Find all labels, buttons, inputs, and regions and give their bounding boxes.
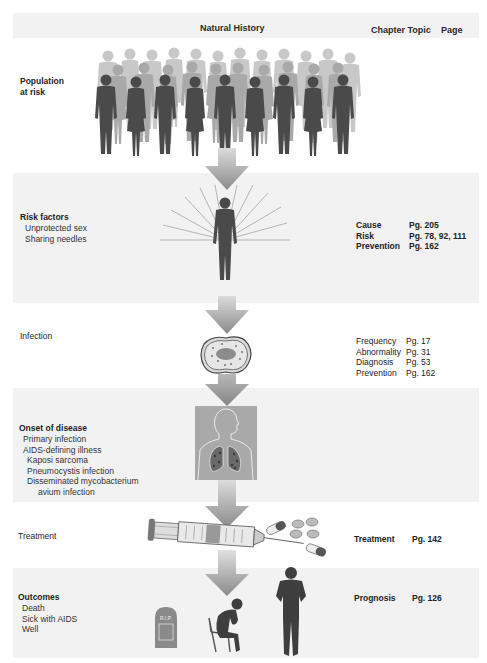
ref-topic: Prevention xyxy=(356,368,406,379)
ref-topic: Cause xyxy=(356,220,409,231)
stage-title-outcomes: Outcomes xyxy=(18,592,77,603)
risk-detail: Unprotected sex xyxy=(20,223,87,234)
person-radiating-illustration xyxy=(155,185,295,290)
ref-row: Abnormality Pg. 31 xyxy=(356,347,435,358)
risk-detail: Sharing needles xyxy=(20,234,87,245)
ref-page-link[interactable]: Pg. 162 xyxy=(406,368,435,379)
infection-refs: Frequency Pg. 17 Abnormality Pg. 31 Diag… xyxy=(356,336,435,378)
flow-arrow-down xyxy=(205,148,249,190)
treatment-refs: Treatment Pg. 142 xyxy=(354,534,442,545)
outcome-detail: Sick with AIDS xyxy=(18,614,77,625)
ref-topic: Frequency xyxy=(356,336,406,347)
ref-row: Prognosis Pg. 126 xyxy=(354,593,442,604)
ref-topic: Prevention xyxy=(356,241,409,252)
onset-detail: AIDS-defining illness xyxy=(19,445,138,456)
onset-detail: Kaposi sarcoma xyxy=(19,455,138,466)
onset-detail: Primary infection xyxy=(19,434,138,445)
stage-outcomes-text: Outcomes Death Sick with AIDS Well xyxy=(18,592,77,635)
onset-detail: Pneumocystis infection xyxy=(19,466,138,477)
ref-row: Risk Pg. 78, 92, 111 xyxy=(356,231,466,242)
stage-title-treatment: Treatment xyxy=(18,531,56,542)
ref-topic: Risk xyxy=(356,231,409,242)
ref-row: Diagnosis Pg. 53 xyxy=(356,357,435,368)
stage-onset-text: Onset of disease Primary infection AIDS-… xyxy=(19,423,138,498)
svg-text:R.I.P.: R.I.P. xyxy=(160,615,172,621)
ref-page-link[interactable]: Pg. 78, 92, 111 xyxy=(409,231,466,242)
ref-page-link[interactable]: Pg. 53 xyxy=(406,357,431,368)
ref-topic: Treatment xyxy=(354,534,412,545)
flow-arrow-down xyxy=(205,374,249,406)
outcomes-refs: Prognosis Pg. 126 xyxy=(354,593,442,604)
ref-row: Prevention Pg. 162 xyxy=(356,241,466,252)
infected-cell-illustration xyxy=(198,334,254,376)
lungs-illustration xyxy=(195,406,257,480)
ref-page-link[interactable]: Pg. 31 xyxy=(406,347,431,358)
ref-row: Prevention Pg. 162 xyxy=(356,368,435,379)
ref-row: Frequency Pg. 17 xyxy=(356,336,435,347)
ref-page-link[interactable]: Pg. 205 xyxy=(409,220,439,231)
ref-page-link[interactable]: Pg. 126 xyxy=(412,593,442,604)
outcome-detail: Well xyxy=(18,624,77,635)
outcome-detail: Death xyxy=(18,603,77,614)
ref-row: Treatment Pg. 142 xyxy=(354,534,442,545)
ref-topic: Prognosis xyxy=(354,593,412,604)
tombstone-illustration: R.I.P. xyxy=(154,606,178,648)
ref-page-link[interactable]: Pg. 162 xyxy=(409,241,439,252)
stage-title-onset: Onset of disease xyxy=(19,423,138,434)
well-person-illustration xyxy=(272,566,310,658)
ref-page-link[interactable]: Pg. 142 xyxy=(412,534,442,545)
stage-title-population: Population at risk xyxy=(20,76,64,98)
onset-detail: Disseminated mycobacterium xyxy=(19,476,138,487)
ref-row: Cause Pg. 205 xyxy=(356,220,466,231)
diagram-title: Natural History xyxy=(200,23,265,33)
ref-topic: Diagnosis xyxy=(356,357,406,368)
sick-person-illustration xyxy=(208,596,248,654)
risk-factors-refs: Cause Pg. 205 Risk Pg. 78, 92, 111 Preve… xyxy=(356,220,466,252)
flow-arrow-down xyxy=(205,296,249,334)
stage-title-infection: Infection xyxy=(20,331,52,342)
column-header-page: Page xyxy=(441,25,463,35)
column-header-chapter-topic: Chapter Topic xyxy=(371,25,431,35)
stage-title-risk-factors: Risk factors xyxy=(20,212,87,223)
onset-detail: avium infection xyxy=(19,487,138,498)
ref-page-link[interactable]: Pg. 17 xyxy=(406,336,431,347)
stage-risk-factors-text: Risk factors Unprotected sex Sharing nee… xyxy=(20,212,87,244)
ref-topic: Abnormality xyxy=(356,347,406,358)
